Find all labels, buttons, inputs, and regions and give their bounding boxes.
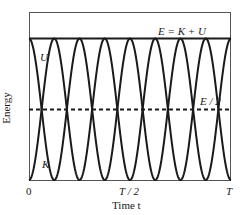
y-axis-label: Energy [0,92,12,124]
potential-energy-label: U [40,52,48,63]
x-tick-period: T [226,186,232,197]
x-tick-0: 0 [26,186,32,197]
total-energy-label: E = K + U [158,26,206,37]
half-energy-label: E / 2 [200,96,221,107]
x-tick-half-period: T / 2 [119,186,139,197]
kinetic-energy-label: K [42,159,49,170]
energy-time-chart [0,0,244,215]
x-axis-label: Time t [112,200,141,211]
